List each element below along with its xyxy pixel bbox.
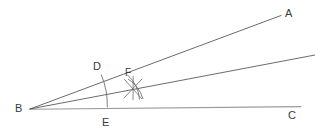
ray-ba bbox=[30, 16, 281, 110]
label-point-d: D bbox=[93, 61, 101, 72]
label-point-c: C bbox=[288, 110, 296, 121]
arc-de bbox=[101, 75, 107, 108]
geometry-diagram: A B C D E F bbox=[0, 0, 315, 138]
geometry-canvas bbox=[0, 0, 315, 138]
label-point-f: F bbox=[125, 67, 131, 78]
label-point-e: E bbox=[102, 117, 109, 128]
ray-bc bbox=[30, 107, 301, 110]
label-point-a: A bbox=[285, 8, 292, 19]
label-point-b: B bbox=[15, 103, 22, 114]
ray-bisector bbox=[30, 55, 315, 109]
